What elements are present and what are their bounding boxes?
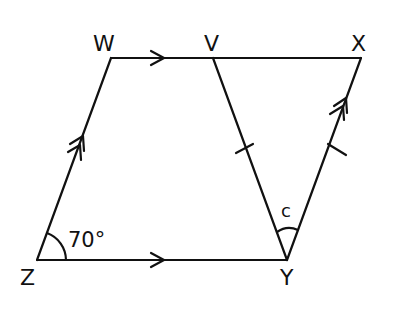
angle-label-z: 70°: [68, 228, 105, 252]
angle-arc-y: [277, 228, 298, 232]
angle-arc-z: [47, 233, 66, 260]
segment-vy: [213, 58, 287, 260]
point-label-w: W: [93, 31, 115, 56]
angle-label-y: c: [281, 200, 291, 221]
point-label-z: Z: [20, 265, 35, 290]
tick-icon-yx: [328, 144, 346, 155]
geometry-diagram: W V X Z Y 70° c: [0, 0, 394, 314]
point-label-x: X: [351, 31, 366, 56]
point-label-v: V: [204, 31, 219, 56]
point-label-y: Y: [279, 265, 294, 290]
